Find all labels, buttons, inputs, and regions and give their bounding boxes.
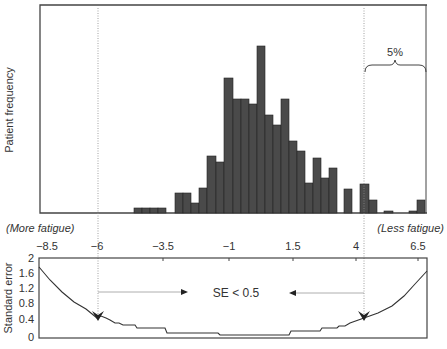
histogram-bar [344,189,352,213]
more-fatigue-label: (More fatigue) [6,222,75,234]
histogram-bar [297,151,305,213]
histogram-bar [191,203,199,213]
five-percent-bracket [365,60,426,72]
histogram-bar [142,208,150,213]
histogram-bar [175,193,183,213]
histogram-bar [313,158,321,213]
histogram-bar [183,193,191,213]
histogram-bar [289,141,297,213]
x-tick: 6.5 [410,240,425,252]
histogram-bar [369,200,377,213]
histogram-bar [199,188,207,213]
histogram-bar [233,99,241,213]
arrow-right-icon [181,289,188,295]
x-tick: −6 [91,240,104,252]
histogram-bar [281,99,289,213]
histogram-bar [360,184,369,213]
standard-error-panel: 2 1.6 1.2 0.8 0.4 0 Standard error SE < … [2,252,427,343]
figure: 5% Patient frequency (More fatigue) (Les… [0,0,447,349]
histogram-bar [207,156,216,213]
histogram-bar [329,168,337,213]
histogram-bar [265,115,273,213]
x-tick: 1.5 [285,240,300,252]
histogram-bar [273,125,281,213]
y-tick: 2 [28,252,34,264]
y-tick: 0 [28,331,34,343]
y-tick: 1.6 [19,267,34,279]
y-axis-ticks-se: 2 1.6 1.2 0.8 0.4 0 [19,252,34,343]
histogram-bar [321,178,329,213]
x-tick: −8.5 [36,240,58,252]
histogram-bar [224,78,233,213]
y-tick: 0.4 [19,313,34,325]
x-tick: −1 [223,240,236,252]
histogram-bar [241,99,249,213]
x-tick: 4 [353,240,359,252]
arrow-left-icon [289,290,296,296]
y-tick: 0.8 [19,297,34,309]
x-axis-ticks: −8.5 −6 −3.5 −1 1.5 4 6.5 [36,240,426,252]
y-tick: 1.2 [19,282,34,294]
histogram-bar [384,211,393,213]
histogram-bars [134,46,425,213]
y-axis-label-se: Standard error [2,262,14,333]
histogram-bar [150,208,158,213]
less-fatigue-label: (Less fatigue) [377,222,444,234]
x-tick: −3.5 [152,240,174,252]
histogram-bar [257,46,265,213]
histogram-bar [134,208,142,213]
histogram-bar [216,162,224,213]
y-axis-label-frequency: Patient frequency [3,67,15,153]
histogram-bar [417,200,425,213]
histogram-bar [305,183,313,213]
histogram-bar [158,208,166,213]
histogram-bar [249,104,257,213]
five-percent-label: 5% [387,46,403,58]
se-curve [39,267,427,335]
se-threshold-label: SE < 0.5 [213,286,260,300]
histogram-panel: 5% Patient frequency [3,5,427,318]
histogram-bar [409,211,417,213]
